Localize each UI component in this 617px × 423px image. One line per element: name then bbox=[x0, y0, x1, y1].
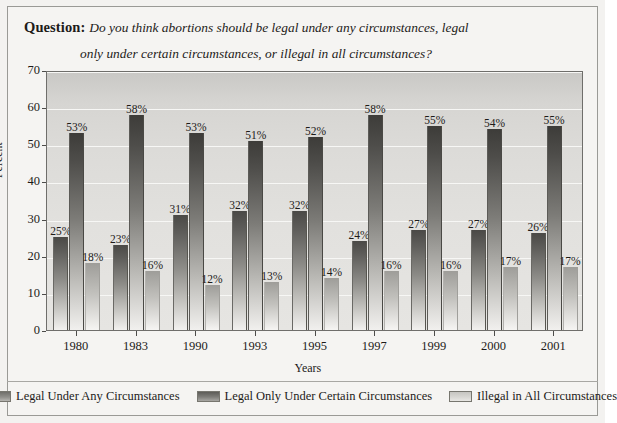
bar bbox=[53, 237, 68, 330]
legend-label: Legal Under Any Circumstances bbox=[16, 389, 180, 404]
x-tick-label: 1993 bbox=[225, 339, 285, 354]
plot-area: 25%53%18%23%58%16%31%53%12%32%51%13%32%5… bbox=[46, 71, 583, 331]
question-header: Question: Do you think abortions should … bbox=[24, 14, 544, 66]
x-tick-mark bbox=[76, 331, 77, 336]
bar-value-label: 58% bbox=[120, 103, 154, 115]
x-tick-label: 1980 bbox=[46, 339, 106, 354]
x-tick-label: 1997 bbox=[344, 339, 404, 354]
x-tick-label: 1983 bbox=[106, 339, 166, 354]
x-tick-label: 1990 bbox=[165, 339, 225, 354]
x-tick-label: 1995 bbox=[285, 339, 345, 354]
bar-value-label: 16% bbox=[136, 259, 170, 271]
bar-value-label: 17% bbox=[494, 255, 528, 267]
x-tick-label: 1999 bbox=[404, 339, 464, 354]
bar bbox=[308, 137, 323, 330]
bar-value-label: 18% bbox=[76, 251, 110, 263]
y-tick-label: 10 bbox=[8, 286, 40, 301]
bar bbox=[292, 211, 307, 330]
bar bbox=[264, 282, 279, 330]
y-tick-label: 40 bbox=[8, 174, 40, 189]
bar bbox=[471, 230, 486, 330]
bar-value-label: 58% bbox=[358, 103, 392, 115]
y-tick-label: 30 bbox=[8, 212, 40, 227]
legend-label: Legal Only Under Certain Circumstances bbox=[225, 389, 433, 404]
bar bbox=[563, 267, 578, 330]
bar bbox=[113, 245, 128, 330]
bar bbox=[411, 230, 426, 330]
bar bbox=[384, 271, 399, 330]
bar bbox=[547, 126, 562, 330]
legend-row: Legal Under Any CircumstancesLegal Only … bbox=[7, 382, 598, 410]
question-text-line-1: Do you think abortions should be legal u… bbox=[89, 20, 468, 35]
legend-item[interactable]: Illegal in All Circumstances bbox=[449, 389, 617, 404]
x-tick-mark bbox=[136, 331, 137, 336]
x-tick-mark bbox=[315, 331, 316, 336]
bar-value-label: 12% bbox=[195, 273, 229, 285]
bar bbox=[368, 115, 383, 330]
bar-value-label: 53% bbox=[60, 121, 94, 133]
question-line-2: only under certain circumstances, or ill… bbox=[24, 40, 544, 66]
bar bbox=[352, 241, 367, 330]
x-tick-mark bbox=[255, 331, 256, 336]
bar bbox=[69, 133, 84, 330]
bar bbox=[232, 211, 247, 330]
legend-item[interactable]: Legal Only Under Certain Circumstances bbox=[197, 389, 433, 404]
bar bbox=[487, 129, 502, 330]
legend-swatch bbox=[0, 391, 11, 402]
question-text-line-2: only under certain circumstances, or ill… bbox=[80, 46, 432, 61]
y-tick-label: 20 bbox=[8, 249, 40, 264]
legend-item[interactable]: Legal Under Any Circumstances bbox=[0, 389, 180, 404]
bar-value-label: 14% bbox=[315, 266, 349, 278]
legend-label: Illegal in All Circumstances bbox=[477, 389, 617, 404]
y-tick-label: 50 bbox=[8, 137, 40, 152]
legend: Legal Under Any CircumstancesLegal Only … bbox=[7, 381, 598, 409]
y-tick-label: 0 bbox=[8, 323, 40, 338]
bar-value-label: 17% bbox=[553, 255, 587, 267]
bar bbox=[427, 126, 442, 330]
bar bbox=[248, 141, 263, 330]
x-axis-title: Years bbox=[295, 361, 322, 376]
bar-value-label: 16% bbox=[434, 259, 468, 271]
question-label: Question: bbox=[24, 19, 85, 35]
question-line-1: Question: Do you think abortions should … bbox=[24, 14, 544, 40]
bar bbox=[503, 267, 518, 330]
x-tick-mark bbox=[494, 331, 495, 336]
y-axis-title: Percent bbox=[0, 142, 4, 178]
legend-swatch bbox=[197, 391, 220, 402]
bar-value-label: 53% bbox=[179, 121, 213, 133]
x-tick-mark bbox=[434, 331, 435, 336]
bar bbox=[85, 263, 100, 330]
y-tick-label: 60 bbox=[8, 100, 40, 115]
bar bbox=[173, 215, 188, 330]
bar-value-label: 16% bbox=[374, 259, 408, 271]
x-tick-label: 2001 bbox=[523, 339, 583, 354]
bar-value-label: 52% bbox=[299, 125, 333, 137]
bar-value-label: 51% bbox=[239, 129, 273, 141]
x-tick-mark bbox=[195, 331, 196, 336]
bar bbox=[205, 285, 220, 330]
bar-value-label: 54% bbox=[478, 117, 512, 129]
bar bbox=[443, 271, 458, 330]
x-tick-mark bbox=[553, 331, 554, 336]
y-tick-mark bbox=[42, 331, 46, 332]
bar bbox=[189, 133, 204, 330]
bar bbox=[145, 271, 160, 330]
bar bbox=[324, 278, 339, 330]
bar bbox=[129, 115, 144, 330]
bar-value-label: 13% bbox=[255, 270, 289, 282]
bar-value-label: 55% bbox=[537, 114, 571, 126]
bar-value-label: 55% bbox=[418, 114, 452, 126]
y-tick-label: 70 bbox=[8, 63, 40, 78]
x-tick-mark bbox=[374, 331, 375, 336]
x-tick-label: 2000 bbox=[464, 339, 524, 354]
bar bbox=[531, 233, 546, 330]
legend-swatch bbox=[449, 391, 472, 402]
bars-layer: 25%53%18%23%58%16%31%53%12%32%51%13%32%5… bbox=[47, 72, 582, 330]
